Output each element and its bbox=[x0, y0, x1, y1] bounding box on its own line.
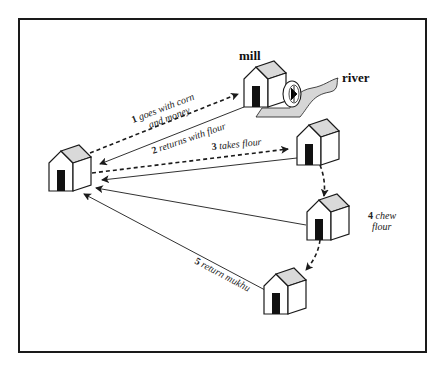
svg-text:4 chew: 4 chew bbox=[368, 210, 396, 221]
svg-text:5 return mukhu: 5 return mukhu bbox=[193, 255, 252, 293]
neighbor-house-1 bbox=[297, 119, 339, 165]
neighbor-house-3 bbox=[264, 268, 306, 314]
river-label: river bbox=[342, 70, 370, 85]
step-5-label: 5 return mukhu bbox=[193, 255, 252, 293]
mill-label: mill bbox=[239, 48, 261, 63]
neighbor-house-2 bbox=[307, 194, 349, 240]
step-3-label: 3 takes flour bbox=[211, 136, 262, 152]
svg-text:3 takes flour: 3 takes flour bbox=[211, 136, 262, 152]
flow-diagram: mill river 1 goes with corn and money 2 … bbox=[0, 0, 441, 368]
mill-building bbox=[244, 61, 301, 107]
svg-text:flour: flour bbox=[372, 221, 392, 232]
step-4-label: 4 chew flour bbox=[368, 210, 396, 232]
home-house bbox=[49, 145, 91, 191]
